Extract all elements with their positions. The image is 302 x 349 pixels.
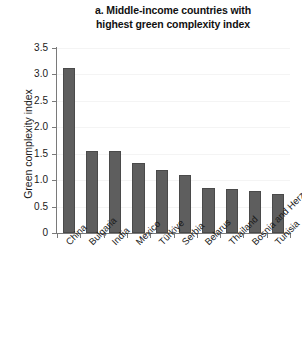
gridline: [57, 48, 290, 49]
chart-title-line-2: highest green complexity index: [50, 17, 296, 31]
bar: [86, 151, 98, 233]
x-axis-tick: [197, 234, 198, 238]
y-axis-tick-label: 1.0: [34, 175, 48, 185]
y-axis-tick: [52, 207, 57, 208]
x-axis-tick: [243, 234, 244, 238]
y-axis-tick: [52, 154, 57, 155]
y-axis-tick-label: 0: [42, 228, 48, 238]
x-axis-tick: [57, 234, 58, 238]
x-axis-tick: [290, 234, 291, 238]
y-axis-tick-label: 2.0: [34, 122, 48, 132]
green-complexity-bar-chart: a. Middle-income countries with highest …: [0, 0, 302, 349]
plot-area: [57, 48, 290, 233]
gridline: [57, 127, 290, 128]
x-axis-tick: [220, 234, 221, 238]
y-axis-tick: [52, 74, 57, 75]
y-axis-tick: [52, 180, 57, 181]
y-axis-tick-label: 1.5: [34, 149, 48, 159]
bar: [132, 163, 144, 233]
bar: [63, 68, 75, 233]
x-axis-tick: [127, 234, 128, 238]
y-axis-tick-label: 3.0: [34, 69, 48, 79]
gridline: [57, 74, 290, 75]
x-axis-tick: [80, 234, 81, 238]
chart-title: a. Middle-income countries with highest …: [50, 3, 296, 31]
x-axis-tick: [174, 234, 175, 238]
y-axis-tick: [52, 101, 57, 102]
y-axis-tick: [52, 48, 57, 49]
y-axis-tick-label: 2.5: [34, 96, 48, 106]
gridline: [57, 101, 290, 102]
y-axis-tick-label: 0.5: [34, 202, 48, 212]
y-axis-tick-label: 3.5: [34, 43, 48, 53]
y-axis-title: Green complexity index: [22, 54, 34, 234]
x-axis-tick: [150, 234, 151, 238]
x-axis-tick: [104, 234, 105, 238]
chart-title-line-1: a. Middle-income countries with: [50, 3, 296, 17]
x-axis-tick: [267, 234, 268, 238]
y-axis-tick: [52, 127, 57, 128]
